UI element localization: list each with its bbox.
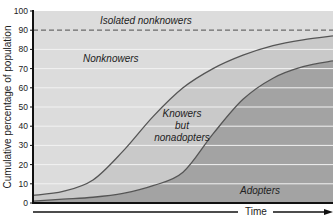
- arrow-head-icon: [324, 209, 333, 215]
- y-tick-label: 10: [19, 179, 29, 189]
- y-tick-label: 100: [14, 6, 28, 16]
- y-axis-title: Cumulative percentage of population: [2, 26, 13, 189]
- label-nonadopters: nonadopters: [154, 132, 210, 143]
- y-tick-label: 80: [19, 44, 29, 54]
- y-tick-label: 50: [19, 102, 29, 112]
- x-axis-title: Time: [245, 206, 267, 215]
- y-tick-label: 30: [19, 140, 29, 150]
- y-tick-label: 70: [19, 64, 29, 74]
- label-knowers: Knowers: [163, 108, 202, 119]
- y-tick-label: 20: [19, 160, 29, 170]
- y-tick-label: 60: [19, 83, 29, 93]
- diffusion-chart: 0102030405060708090100Cumulative percent…: [0, 0, 333, 215]
- label-nonknowers: Nonknowers: [83, 53, 139, 64]
- label-adopters: Adopters: [239, 185, 280, 196]
- y-tick-label: 90: [19, 25, 29, 35]
- label-but: but: [175, 120, 190, 131]
- y-tick-label: 40: [19, 121, 29, 131]
- label-isolated-nonknowers: Isolated nonknowers: [100, 15, 192, 26]
- y-tick-label: 0: [23, 198, 28, 208]
